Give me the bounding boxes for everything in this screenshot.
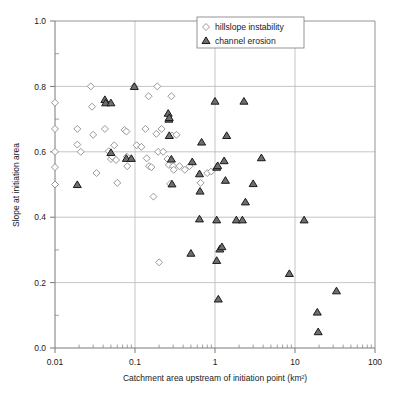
y-tick-label: 1.0 xyxy=(34,16,46,26)
y-tick-label: 0.8 xyxy=(34,82,46,92)
y-tick-label: 0.4 xyxy=(34,212,46,222)
figure-background xyxy=(0,0,400,403)
x-tick-label: 10 xyxy=(290,357,300,367)
x-tick-label: 1 xyxy=(213,357,218,367)
x-tick-label: 0.01 xyxy=(47,357,64,367)
legend: hillslope instabilitychannel erosion xyxy=(197,17,304,48)
y-tick-label: 0.2 xyxy=(34,278,46,288)
x-axis-title: Catchment area upstream of initiation po… xyxy=(123,373,307,383)
legend-label: channel erosion xyxy=(215,36,276,46)
y-tick-label: 0.6 xyxy=(34,147,46,157)
x-tick-label: 0.1 xyxy=(129,357,141,367)
y-axis-title: Slope at initiation area xyxy=(11,143,21,227)
legend-label: hillslope instability xyxy=(215,22,284,32)
y-tick-label: 0.0 xyxy=(34,343,46,353)
x-tick-label: 100 xyxy=(368,357,382,367)
plot-canvas: 0.010.1110100 0.00.20.40.60.81.0 Catchme… xyxy=(0,0,400,403)
scatter-plot-figure: 0.010.1110100 0.00.20.40.60.81.0 Catchme… xyxy=(0,0,400,403)
